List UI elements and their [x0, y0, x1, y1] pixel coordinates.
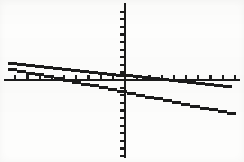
segment [54, 77, 63, 80]
y-tick [120, 125, 124, 127]
x-tick [26, 75, 28, 79]
segment [116, 74, 125, 77]
segment [72, 81, 81, 84]
y-tick [120, 26, 124, 28]
segment [154, 97, 163, 100]
y-tick [120, 18, 124, 20]
segment [163, 99, 172, 102]
segment [160, 78, 169, 81]
segment [117, 90, 126, 93]
y-tick [120, 71, 124, 73]
segment [196, 82, 205, 85]
y-tick [120, 147, 124, 149]
segment [26, 72, 35, 75]
segment [190, 105, 199, 108]
y-tick [120, 94, 124, 96]
y-tick [120, 56, 124, 58]
segment [8, 68, 17, 71]
y-tick [120, 117, 124, 119]
segment [133, 75, 142, 78]
segment [218, 110, 227, 113]
segment [71, 69, 80, 72]
segment [124, 74, 133, 77]
segment [26, 64, 35, 67]
segment [17, 70, 26, 73]
segment [35, 73, 44, 76]
x-tick [234, 75, 236, 79]
x-tick [14, 75, 16, 79]
segment [187, 81, 196, 84]
segment [145, 96, 154, 99]
x-tick [63, 75, 65, 79]
segment [17, 63, 26, 66]
x-tick [173, 75, 175, 79]
segment [63, 79, 72, 82]
segment [142, 76, 151, 79]
y-tick [120, 132, 124, 134]
y-tick [120, 64, 124, 66]
segment [44, 66, 53, 69]
y-axis [124, 3, 126, 158]
calculator-screen [0, 0, 244, 162]
y-tick [120, 41, 124, 43]
segment [62, 68, 71, 71]
segment [81, 83, 90, 86]
segment [127, 92, 136, 95]
segment [178, 80, 187, 83]
segment [136, 94, 145, 97]
y-tick [120, 49, 124, 51]
y-tick [120, 109, 124, 111]
x-tick [185, 75, 187, 79]
segment [214, 84, 223, 87]
segment [227, 112, 236, 115]
segment [172, 101, 181, 104]
segment [44, 75, 53, 78]
x-axis-line [4, 79, 240, 81]
segment [151, 77, 160, 80]
segment [209, 108, 218, 111]
y-tick [120, 87, 124, 89]
segment [181, 103, 190, 106]
segment [80, 70, 89, 73]
x-tick [222, 75, 224, 79]
x-tick [87, 75, 89, 79]
y-tick [120, 11, 124, 13]
x-tick [209, 75, 211, 79]
segment [205, 83, 214, 86]
y-tick [120, 140, 124, 142]
y-tick [120, 155, 124, 157]
x-axis [4, 79, 240, 81]
x-tick [197, 75, 199, 79]
segment [169, 79, 178, 82]
segment [89, 71, 98, 74]
x-tick [100, 75, 102, 79]
y-tick [120, 102, 124, 104]
segment [98, 72, 107, 75]
segment [200, 107, 209, 110]
segment [99, 86, 108, 89]
segment [223, 85, 232, 88]
segment [8, 62, 17, 65]
y-axis-line [124, 3, 126, 158]
segment [90, 84, 99, 87]
graph-plot-area [0, 0, 244, 162]
segment [53, 67, 62, 70]
segment [35, 65, 44, 68]
segment [107, 73, 116, 76]
y-tick [120, 33, 124, 35]
x-tick [75, 75, 77, 79]
segment [108, 88, 117, 91]
